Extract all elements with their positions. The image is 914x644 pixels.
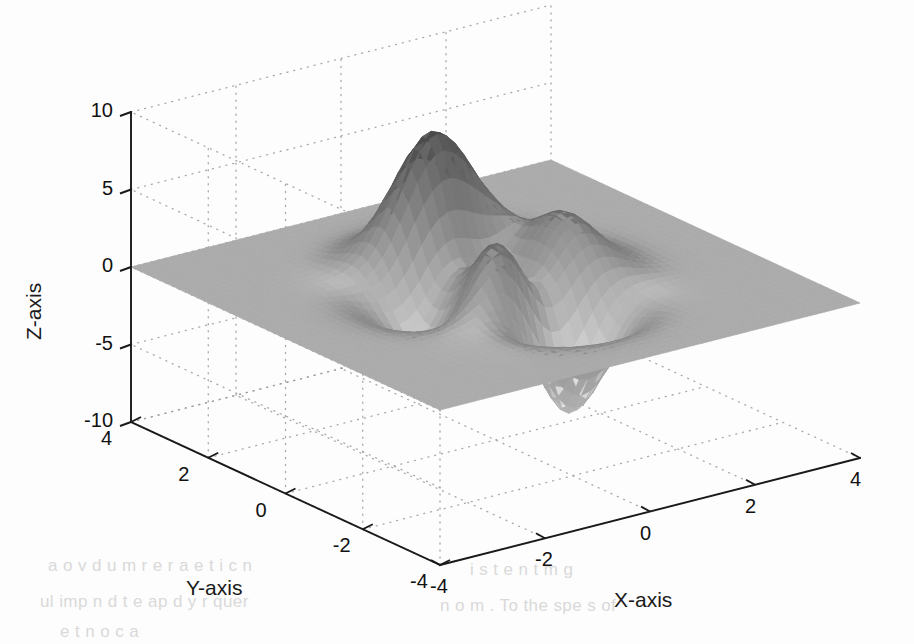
scan-ghost-text: n o m . To the spe s of: [440, 596, 616, 616]
scan-ghost-text: i s t e n t m g: [470, 560, 573, 580]
x-tick-label: 4: [850, 468, 861, 491]
surface-mesh: [131, 131, 860, 413]
z-tick-label: 0: [0, 254, 113, 277]
z-tick-label: -10: [0, 409, 113, 432]
scan-ghost-text: e t n o c a: [60, 622, 139, 642]
x-tick-label: 2: [745, 495, 756, 518]
z-tick-label: 10: [0, 99, 113, 122]
x-tick-label: -4: [430, 575, 448, 598]
surface-plot-svg: [0, 0, 914, 644]
y-tick-label: -4: [410, 570, 428, 593]
z-tick-label: -5: [0, 332, 113, 355]
x-tick-label: 0: [640, 522, 651, 545]
scan-ghost-text: ul imp n d t e ap d y r quer: [40, 592, 249, 612]
y-tick-label: -2: [333, 534, 351, 557]
scan-ghost-text: a o v d u m r e r a e t i c n: [48, 556, 252, 576]
x-axis-label: X-axis: [614, 588, 672, 612]
y-tick-label: 0: [256, 499, 267, 522]
z-tick-label: 5: [0, 177, 113, 200]
figure-canvas: Z-axis Y-axis X-axis -4-2024420-2-4-10-5…: [0, 0, 914, 644]
y-tick-label: 2: [178, 463, 189, 486]
